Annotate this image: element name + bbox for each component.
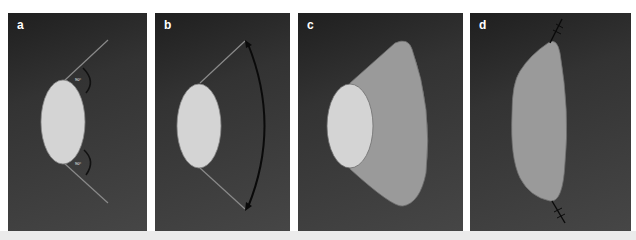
- panel-label-c: c: [307, 18, 314, 32]
- defect-ellipse: [177, 84, 221, 168]
- guide-line-upper: [64, 40, 108, 81]
- defect-ellipse: [41, 80, 85, 164]
- guide-line-lower: [64, 163, 108, 203]
- panel-label-d: d: [479, 18, 486, 32]
- arc-arrow-icon: [248, 44, 265, 207]
- panel-c: c: [298, 13, 463, 231]
- angle-label-upper: 90°: [75, 77, 81, 82]
- panel-b-drawing: [155, 13, 290, 231]
- angle-arc-lower-icon: [84, 150, 91, 175]
- closed-flap: [512, 41, 567, 201]
- panel-a-drawing: 90° 90°: [8, 13, 147, 231]
- guide-line-upper: [200, 41, 245, 83]
- angle-arc-upper-icon: [83, 68, 90, 93]
- guide-line-lower: [200, 168, 245, 209]
- caption-strip: [0, 231, 636, 240]
- panel-d-drawing: [470, 13, 631, 231]
- panel-label-a: a: [17, 18, 24, 32]
- panel-c-drawing: [298, 13, 463, 231]
- angle-label-lower: 90°: [75, 161, 81, 166]
- defect-ellipse: [327, 84, 373, 168]
- panel-a: 90° 90° a: [8, 13, 147, 231]
- panel-b: b: [155, 13, 290, 231]
- panel-label-b: b: [164, 18, 171, 32]
- suture-line-bottom: [552, 201, 565, 223]
- panel-d: d: [470, 13, 631, 231]
